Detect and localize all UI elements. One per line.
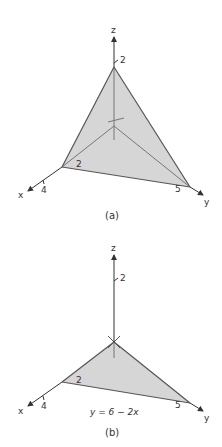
caption-a: (a) (105, 210, 119, 221)
line-equation: y = 6 − 2x (89, 407, 139, 417)
caption-b: (b) (105, 427, 119, 438)
x-axis-label: x (18, 406, 24, 416)
z-tick (114, 278, 118, 281)
z-axis-label: z (111, 243, 116, 253)
figure-canvas: z x y 2 4 2 5 (a) z x y 2 4 2 5 y = 6 − … (0, 0, 222, 447)
y-axis-label: y (204, 413, 210, 423)
y-tick-label: 5 (175, 400, 181, 410)
x-tick (43, 396, 44, 400)
x-axis-label: x (18, 190, 24, 200)
z-tick-label: 2 (120, 273, 126, 283)
y-axis-label: y (204, 197, 210, 207)
y-axis (190, 403, 203, 411)
y-tick-label: 5 (175, 184, 181, 194)
z-axis-label: z (111, 25, 116, 35)
x-inner-tick-label: 2 (76, 375, 82, 385)
figure-a: z x y 2 4 2 5 (a) (18, 25, 210, 221)
z-tick-label: 2 (120, 55, 126, 65)
z-tick (114, 60, 118, 63)
y-axis (190, 187, 203, 195)
x-inner-tick-label: 2 (76, 159, 82, 169)
x-tick-label: 4 (41, 185, 47, 195)
x-tick-label: 4 (41, 401, 47, 411)
x-tick (43, 180, 44, 184)
figure-b: z x y 2 4 2 5 y = 6 − 2x (b) (18, 243, 210, 438)
